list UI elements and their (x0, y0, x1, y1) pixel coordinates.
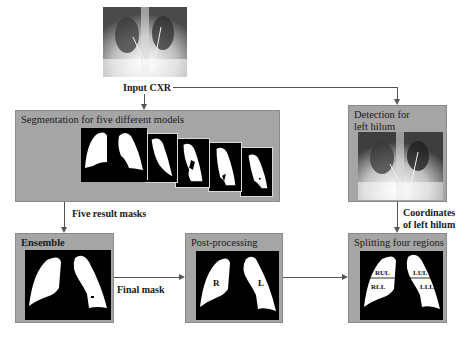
arrow-detection-to-splitting (397, 202, 398, 228)
input-cxr-image (103, 7, 187, 77)
ensemble-title: Ensemble (21, 237, 65, 249)
region-lll-label: LLL (420, 283, 434, 291)
coordinates-label-line2: of left hilum (403, 219, 455, 230)
splitting-title: Splitting four regions (354, 237, 444, 249)
ensemble-mask-image (25, 250, 111, 320)
arrow-input-to-detection (173, 87, 398, 88)
model-4-mask (208, 142, 242, 192)
postprocessing-mask-image (196, 251, 279, 320)
coordinates-label-line1: Coordinates (403, 207, 455, 218)
region-rll-label: RLL (371, 283, 385, 291)
detection-cxr-image (358, 132, 443, 200)
region-rul-label: RUL (375, 269, 390, 277)
detection-title-line1: Detection for (354, 109, 410, 121)
arrow-ensemble-to-postprocessing (114, 277, 180, 278)
final-mask-label: Final mask (117, 284, 165, 295)
segmentation-full-mask (81, 128, 147, 182)
region-lul-label: LUL (413, 269, 427, 277)
chest-xray-icon (103, 7, 187, 77)
postprocessing-title: Post-processing (191, 237, 258, 249)
arrow-postprocessing-to-splitting (283, 277, 343, 278)
segmentation-title: Segmentation for five different models (21, 114, 184, 126)
chest-xray-icon (358, 132, 443, 200)
five-result-masks-label: Five result masks (72, 208, 146, 219)
input-cxr-label: Input CXR (123, 82, 171, 93)
model-3-mask (175, 138, 210, 188)
model-2-mask (145, 133, 178, 183)
model-5-mask (240, 147, 273, 197)
left-lung-label: L (258, 278, 264, 288)
right-lung-label: R (213, 278, 220, 288)
arrow-segmentation-to-ensemble (64, 202, 65, 228)
